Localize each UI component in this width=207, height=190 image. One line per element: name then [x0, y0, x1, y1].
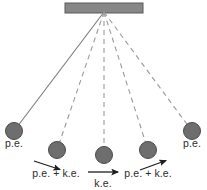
energy-label-pe-left: p.e.: [5, 137, 23, 149]
pendulum-string-2-dashed: [57, 12, 104, 150]
pendulum-bob-3: [96, 147, 113, 164]
pendulum-bob-4: [140, 142, 157, 159]
pendulum-bob-2: [49, 142, 66, 159]
pendulum-energy-diagram: p.e. p.e. + k.e. k.e. p.e. + k.e. p.e.: [0, 0, 207, 190]
diagram-canvas: p.e. p.e. + k.e. k.e. p.e. + k.e. p.e.: [0, 0, 207, 190]
energy-label-pe-ke-left: p.e. + k.e.: [32, 167, 80, 179]
pendulum-string-1-solid: [14, 12, 104, 131]
energy-label-ke-center: k.e.: [94, 177, 111, 189]
energy-label-pe-ke-right: p.e. + k.e.: [124, 167, 172, 179]
energy-label-pe-right: p.e.: [183, 137, 201, 149]
pendulum-string-5-dashed: [104, 12, 192, 131]
support-bar: [65, 3, 143, 13]
pendulum-string-4-dashed: [104, 12, 148, 150]
